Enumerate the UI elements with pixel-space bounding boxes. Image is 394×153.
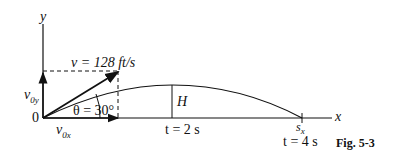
y-axis-label: y xyxy=(40,10,46,24)
velocity-text: v = 128 ft/s xyxy=(71,55,135,70)
x-axis-label: x xyxy=(335,110,341,124)
v0x-subscript: 0x xyxy=(62,130,71,140)
v0x-label: v0x xyxy=(56,123,71,142)
velocity-label: v = 128 ft/s xyxy=(71,56,135,70)
origin-label: 0 xyxy=(32,111,39,125)
angle-label: θ = 30° xyxy=(73,104,114,118)
end-time-label: t = 4 s xyxy=(283,135,318,149)
mid-time-label: t = 2 s xyxy=(165,123,200,137)
figure-caption: Fig. 5-3 xyxy=(336,136,375,150)
v0y-label: v0y xyxy=(24,88,39,107)
max-height-label: H xyxy=(177,95,187,109)
v0y-subscript: 0y xyxy=(30,95,39,105)
